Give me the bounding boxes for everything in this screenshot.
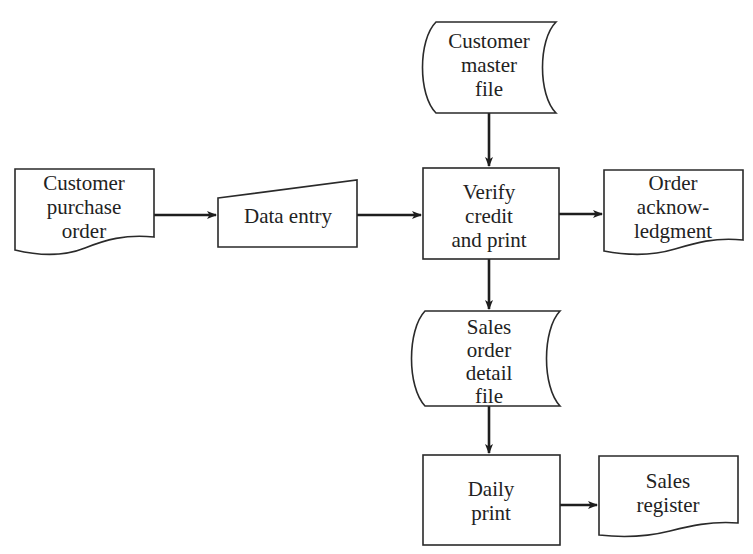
- node-label-line: Daily: [468, 477, 515, 501]
- node-label-line: file: [475, 384, 503, 408]
- node-label-line: and print: [451, 228, 526, 252]
- node-daily-print: Daily print: [423, 455, 560, 545]
- node-data-entry: Data entry: [218, 180, 357, 247]
- node-label-line: Customer: [448, 29, 530, 53]
- node-label-line: ledgment: [634, 219, 712, 243]
- node-verify-credit-and-print: Verify credit and print: [423, 168, 559, 259]
- node-label-line: master: [461, 53, 517, 77]
- node-label-line: print: [471, 501, 511, 525]
- node-label-line: file: [475, 77, 503, 101]
- node-label-line: Customer: [43, 171, 125, 195]
- node-label-line: register: [637, 493, 700, 517]
- node-label-line: Data entry: [244, 204, 333, 228]
- node-customer-master-file: Customer master file: [423, 22, 557, 113]
- node-label-line: purchase: [47, 195, 122, 219]
- node-customer-purchase-order: Customer purchase order: [15, 169, 154, 254]
- node-label-line: Sales: [646, 469, 690, 493]
- node-label-line: Order: [649, 171, 698, 195]
- node-label-line: order: [467, 338, 511, 362]
- node-sales-order-detail-file: Sales order detail file: [412, 311, 561, 408]
- node-label-line: Sales: [467, 315, 511, 339]
- node-label-line: credit: [465, 204, 513, 228]
- node-order-acknowledgment: Order acknow- ledgment: [604, 170, 743, 254]
- node-label-line: detail: [466, 361, 513, 385]
- node-sales-register: Sales register: [599, 456, 738, 536]
- node-label-line: acknow-: [637, 195, 709, 219]
- node-label-line: Verify: [463, 180, 516, 204]
- flowchart-canvas: Customer purchase order Data entry Custo…: [0, 0, 753, 554]
- node-label-line: order: [62, 219, 106, 243]
